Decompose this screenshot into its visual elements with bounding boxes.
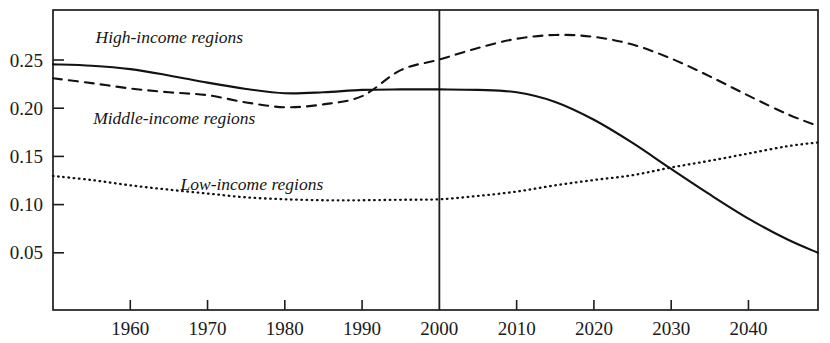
y-axis-tick-marks [53, 60, 64, 253]
y-axis-tick-labels: 0.050.100.150.200.25 [10, 50, 43, 264]
x-tick-label-1960: 1960 [111, 318, 149, 339]
x-axis-tick-labels: 196019701980199020002010202020302040 [111, 318, 767, 339]
annotation-middle-income: Middle-income regions [92, 108, 255, 128]
y-tick-label-0.15: 0.15 [10, 146, 43, 167]
series-curves-group [53, 35, 818, 253]
x-tick-label-2020: 2020 [575, 318, 613, 339]
x-tick-label-1980: 1980 [266, 318, 304, 339]
y-tick-label-0.20: 0.20 [10, 98, 43, 119]
y-tick-label-0.25: 0.25 [10, 50, 43, 71]
annotation-high-income: High-income regions [95, 27, 244, 47]
x-tick-label-2030: 2030 [652, 318, 690, 339]
chart-figure: 0.050.100.150.200.25 1960197019801990200… [0, 0, 830, 343]
x-tick-label-2010: 2010 [498, 318, 536, 339]
y-tick-label-0.05: 0.05 [10, 242, 43, 263]
x-tick-label-1990: 1990 [343, 318, 381, 339]
chart-canvas: 0.050.100.150.200.25 1960197019801990200… [0, 0, 830, 343]
x-tick-label-1970: 1970 [189, 318, 227, 339]
series-line-low-income-regions [53, 142, 818, 200]
x-tick-label-2000: 2000 [420, 318, 458, 339]
plot-frame [53, 10, 818, 310]
annotation-low-income: Low-income regions [180, 174, 324, 194]
x-tick-label-2040: 2040 [729, 318, 767, 339]
y-tick-label-0.10: 0.10 [10, 194, 43, 215]
series-annotation-group: High-income regionsMiddle-income regions… [92, 27, 323, 194]
